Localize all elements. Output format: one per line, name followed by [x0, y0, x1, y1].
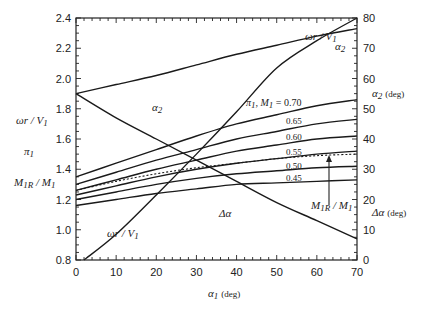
annotation-omega-bottom: ωr / V1 [107, 227, 139, 241]
right-label-alpha2: α2(deg) [372, 87, 404, 101]
x-tick-label: 70 [351, 266, 363, 278]
y-left-tick-label: 2.2 [56, 42, 71, 54]
data-curves [76, 18, 357, 260]
y-right-tick-label: 70 [363, 42, 375, 54]
y-left-tick-label: 1.6 [56, 133, 71, 145]
annotation-family: π1, M1 = 0.70 [246, 97, 302, 110]
series-line [76, 151, 357, 195]
x-tick-label: 10 [110, 266, 122, 278]
y-right-tick-label: 60 [363, 73, 375, 85]
y-left-tick-label: 1.4 [56, 163, 71, 175]
y-left-tick-label: 2.0 [56, 73, 71, 85]
annotation-dalpha: Δα [218, 207, 231, 219]
x-tick-label: 60 [311, 266, 323, 278]
y-right-tick-label: 20 [363, 194, 375, 206]
y-right-tick-label: 50 [363, 103, 375, 115]
y-right-tick-label: 40 [363, 133, 375, 145]
chart: 0102030405060700.81.01.21.41.61.82.02.22… [0, 0, 424, 313]
annotation-alpha2-left: α2 [152, 101, 163, 115]
x-tick-label: 50 [271, 266, 283, 278]
annotation-055: 0.55 [286, 147, 302, 157]
annotation-m1r: M1R / M1 [310, 199, 352, 213]
left-label-m: M1R / M1 [13, 176, 55, 190]
y-left-tick-label: 1.0 [56, 224, 71, 236]
y-right-tick-label: 80 [363, 12, 375, 24]
left-label-pi: π1 [24, 145, 34, 159]
left-label-omega: ωr / V1 [16, 114, 48, 128]
y-left-tick-label: 0.8 [56, 254, 71, 266]
x-tick-label: 0 [73, 266, 79, 278]
arrow-head-icon [326, 155, 332, 162]
y-left-tick-label: 2.4 [56, 12, 71, 24]
annotation-065: 0.65 [286, 116, 302, 126]
annotation-060: 0.60 [286, 132, 302, 142]
y-right-tick-label: 0 [363, 254, 369, 266]
x-axis-label: α1(deg) [208, 287, 240, 301]
annotation-050: 0.50 [286, 161, 302, 171]
series-line [76, 100, 357, 177]
annotation-045: 0.45 [286, 173, 302, 183]
y-right-tick-label: 30 [363, 163, 375, 175]
y-left-tick-label: 1.2 [56, 194, 71, 206]
x-tick-label: 40 [230, 266, 242, 278]
y-left-tick-label: 1.8 [56, 103, 71, 115]
annotation-omega-top: ωr / V1 [305, 30, 337, 44]
right-label-dalpha: Δα(deg) [371, 206, 406, 218]
annotation-alpha2-right: α2 [335, 40, 346, 54]
x-tick-label: 30 [190, 266, 202, 278]
x-tick-label: 20 [150, 266, 162, 278]
y-right-tick-label: 10 [363, 224, 375, 236]
